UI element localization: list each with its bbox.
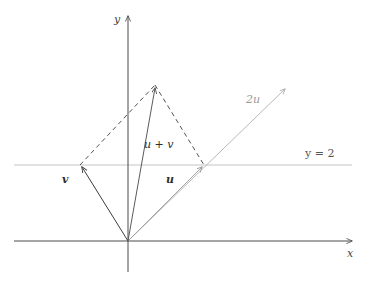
vector-label-v: v (62, 174, 68, 185)
diagram-canvas (0, 0, 369, 289)
x-axis-label: x (347, 248, 353, 259)
dashed-line-apex-to-u (155, 85, 204, 165)
vector-label-2u: 2u (246, 94, 260, 105)
vector-diagram-figure: y x v u u + v 2u y = 2 (0, 0, 369, 289)
y-axis-label: y (114, 14, 120, 25)
vector-v (82, 167, 128, 241)
reference-line-label: y = 2 (305, 148, 334, 159)
vector-label-u: u (166, 174, 174, 185)
vector-label-u-plus-v: u + v (144, 139, 174, 150)
